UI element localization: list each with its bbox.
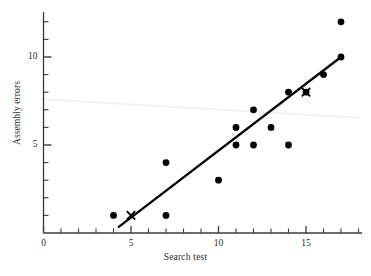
scan-artifact-line xyxy=(44,99,359,117)
data-point xyxy=(215,177,222,184)
data-point xyxy=(163,159,170,166)
y-axis-tick-label: 10 xyxy=(14,51,38,61)
data-point xyxy=(338,54,345,61)
data-point xyxy=(163,212,170,219)
y-axis-title: Assembly errors xyxy=(12,58,22,168)
data-point xyxy=(320,71,327,78)
data-point xyxy=(338,18,345,25)
scatter-plot-figure: Assembly errors Search test 051015510 xyxy=(0,0,371,276)
x-axis-title: Search test xyxy=(0,252,371,262)
plot-canvas xyxy=(0,0,371,276)
data-point xyxy=(285,89,292,96)
x-axis-tick-label: 0 xyxy=(32,238,56,248)
data-point xyxy=(268,124,275,131)
data-point xyxy=(233,142,240,149)
y-axis-tick-label: 5 xyxy=(14,139,38,149)
data-point xyxy=(233,124,240,131)
regression-line xyxy=(119,57,341,227)
x-axis-tick-label: 10 xyxy=(207,238,231,248)
data-point xyxy=(250,142,257,149)
x-axis-tick-label: 5 xyxy=(119,238,143,248)
x-axis-tick-label: 15 xyxy=(294,238,318,248)
data-point xyxy=(285,142,292,149)
data-point xyxy=(250,106,257,113)
data-point xyxy=(110,212,117,219)
